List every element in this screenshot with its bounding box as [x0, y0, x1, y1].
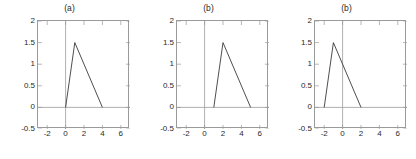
x-tick-label: -2 [44, 130, 51, 138]
y-tick-label: 2 [170, 17, 174, 25]
axes-box: -0.500.511.52-20246 [37, 20, 129, 128]
data-series-line [66, 43, 103, 108]
subplot-title: (b) [139, 3, 278, 13]
y-tick-label: 2 [308, 17, 312, 25]
x-tick-label: 6 [396, 130, 400, 138]
x-tick-label: 0 [340, 130, 344, 138]
x-tick-label: 2 [359, 130, 363, 138]
axes-box: -0.500.511.52-20246 [176, 20, 268, 128]
subplot-1: (b)-0.500.511.52-20246 [139, 0, 278, 159]
plot-canvas [38, 21, 130, 129]
x-tick-label: 2 [221, 130, 225, 138]
y-tick-label: -0.5 [160, 125, 174, 133]
y-tick-label: 2 [31, 17, 35, 25]
x-tick-label: 0 [202, 130, 206, 138]
y-tick-label: 1.5 [163, 39, 174, 47]
x-tick-label: 4 [377, 130, 381, 138]
y-tick-label: 1 [31, 60, 35, 68]
plot-canvas [315, 21, 407, 129]
subplot-title: (b) [277, 3, 416, 13]
y-tick-label: -0.5 [298, 125, 312, 133]
x-tick-label: 4 [239, 130, 243, 138]
x-tick-label: -2 [321, 130, 328, 138]
subplot-0: (a)-0.500.511.52-20246 [0, 0, 139, 159]
data-series-line [214, 43, 251, 108]
subplot-2: (b)-0.500.511.52-20246 [277, 0, 416, 159]
x-tick-label: 6 [119, 130, 123, 138]
x-tick-label: 6 [258, 130, 262, 138]
y-tick-label: 0 [170, 103, 174, 111]
x-tick-label: 4 [100, 130, 104, 138]
plot-canvas [177, 21, 269, 129]
x-tick-label: 0 [63, 130, 67, 138]
figure-multi-subplot: (a)-0.500.511.52-20246(b)-0.500.511.52-2… [0, 0, 416, 159]
y-tick-label: 1.5 [301, 39, 312, 47]
y-tick-label: 0 [308, 103, 312, 111]
subplot-title: (a) [0, 3, 139, 13]
y-tick-label: 0 [31, 103, 35, 111]
x-tick-label: -2 [183, 130, 190, 138]
y-tick-label: 0.5 [301, 82, 312, 90]
y-tick-label: 0.5 [163, 82, 174, 90]
y-tick-label: 1 [308, 60, 312, 68]
y-tick-label: 1 [170, 60, 174, 68]
y-tick-label: 0.5 [24, 82, 35, 90]
axes-box: -0.500.511.52-20246 [314, 20, 406, 128]
y-tick-label: 1.5 [24, 39, 35, 47]
y-tick-label: -0.5 [21, 125, 35, 133]
x-tick-label: 2 [82, 130, 86, 138]
